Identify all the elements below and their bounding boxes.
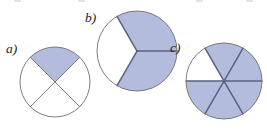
figure-canvas: a)b)c): [0, 0, 267, 131]
circle-group-b: b): [85, 10, 177, 91]
circle-group-c: c): [170, 40, 262, 119]
part-label-b: b): [85, 10, 97, 25]
part-label-c: c): [170, 40, 181, 55]
fraction-circles-figure: a)b)c): [0, 0, 267, 131]
circle-group-a: a): [6, 41, 90, 117]
part-label-a: a): [6, 41, 18, 56]
